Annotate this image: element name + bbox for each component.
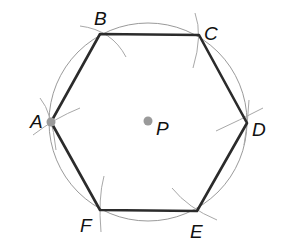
center-point-p: [144, 117, 153, 126]
arc-at-f: [100, 176, 104, 232]
arc-at-e: [172, 188, 217, 220]
vertex-label-a: A: [29, 111, 43, 132]
vertex-label-f: F: [80, 215, 93, 236]
vertex-label-c: C: [204, 23, 218, 44]
hexagon-construction-diagram: A B C D E F P: [0, 0, 281, 244]
arc-at-c: [193, 13, 199, 68]
vertex-label-d: D: [252, 119, 266, 140]
arc-at-b: [80, 26, 126, 57]
vertex-label-e: E: [190, 221, 203, 242]
center-label-p: P: [156, 118, 169, 139]
point-a-marker: [47, 118, 56, 127]
vertex-label-b: B: [94, 8, 107, 29]
